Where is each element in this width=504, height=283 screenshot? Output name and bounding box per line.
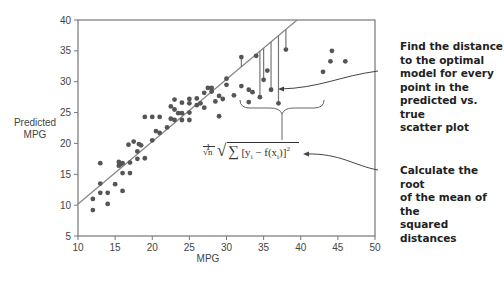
data-point <box>150 114 155 119</box>
data-point <box>276 101 281 106</box>
y-tick-label: 30 <box>60 76 72 87</box>
annotation-line: squared distances <box>400 218 504 245</box>
annotation-line: point in the <box>400 81 504 95</box>
annotation-line: Find the distance <box>400 40 504 54</box>
annotation-line: model for every <box>400 67 504 81</box>
data-point <box>284 47 289 52</box>
data-point <box>98 161 103 166</box>
data-point <box>198 101 203 106</box>
y-axis-title-line2: MPG <box>24 129 47 140</box>
x-axis-title: MPG <box>197 253 220 264</box>
y-tick-label: 20 <box>60 138 72 149</box>
sqrt-symbol-icon: √ <box>217 141 226 161</box>
formula-term: [yi − f(xi)]2 <box>241 146 289 158</box>
rmse-formula: 1 √n √ ∑ [yi − f(xi)]2 <box>203 143 313 167</box>
data-point <box>120 171 125 176</box>
residual-lines <box>241 29 286 103</box>
data-point <box>254 53 259 58</box>
data-point <box>239 84 244 89</box>
data-point <box>239 55 244 60</box>
x-tick-label: 25 <box>184 242 196 253</box>
y-tick-label: 35 <box>60 45 72 56</box>
data-point <box>213 99 218 104</box>
data-point <box>180 111 185 116</box>
data-point <box>157 131 162 136</box>
x-tick-label: 10 <box>72 242 84 253</box>
y-tick-label: 15 <box>60 169 72 180</box>
curly-brace <box>240 100 324 140</box>
data-point <box>343 59 348 64</box>
data-points <box>90 47 347 212</box>
x-tick-label: 15 <box>110 242 122 253</box>
x-tick-label: 50 <box>369 242 381 253</box>
data-point <box>232 93 237 98</box>
data-point <box>261 77 266 82</box>
data-point <box>187 97 192 102</box>
data-point <box>246 100 251 105</box>
x-tick-label: 30 <box>221 242 233 253</box>
data-point <box>217 114 222 119</box>
data-point <box>224 76 229 81</box>
annotation-line: to the optimal <box>400 54 504 68</box>
data-point <box>269 87 274 92</box>
data-point <box>157 114 162 119</box>
annotation-line: scatter plot <box>400 121 504 135</box>
data-point <box>172 107 177 112</box>
data-point <box>180 100 185 105</box>
data-point <box>90 208 95 213</box>
data-point <box>217 94 222 99</box>
annotation-line: predicted vs. true <box>400 94 504 121</box>
data-point <box>90 197 95 202</box>
data-point <box>328 59 333 64</box>
data-point <box>180 118 185 123</box>
y-tick-label: 10 <box>60 200 72 211</box>
data-point <box>194 96 199 101</box>
data-point <box>139 143 144 148</box>
data-point <box>142 156 147 161</box>
data-point <box>128 160 133 165</box>
data-point <box>187 101 192 106</box>
data-point <box>113 182 118 187</box>
y-axis-title-line1: Predicted <box>14 117 56 128</box>
x-tick-label: 45 <box>332 242 344 253</box>
data-point <box>98 190 103 195</box>
annotation-top: Find the distance to the optimal model f… <box>400 40 504 135</box>
data-point <box>321 69 326 74</box>
x-tick-label: 40 <box>295 242 307 253</box>
data-point <box>105 190 110 195</box>
data-point <box>258 95 263 100</box>
data-point <box>120 161 125 166</box>
data-point <box>209 89 214 94</box>
data-point <box>265 68 270 73</box>
data-point <box>165 125 170 130</box>
annotation-line: of the mean of the <box>400 191 504 218</box>
data-point <box>202 105 207 110</box>
data-point <box>120 189 125 194</box>
annotation-line: Calculate the root <box>400 164 504 191</box>
data-point <box>135 149 140 154</box>
data-point <box>98 181 103 186</box>
data-point <box>135 156 140 161</box>
data-point <box>131 139 136 144</box>
data-point <box>142 114 147 119</box>
data-point <box>202 90 207 95</box>
data-point <box>150 138 155 143</box>
y-tick-label: 25 <box>60 107 72 118</box>
annotation-bottom: Calculate the root of the mean of the sq… <box>400 164 504 245</box>
y-tick-label: 40 <box>60 15 72 26</box>
data-point <box>126 142 131 147</box>
sum-symbol: ∑ <box>228 143 239 159</box>
data-point <box>187 118 192 123</box>
data-point <box>128 171 133 176</box>
data-point <box>187 110 192 115</box>
data-point <box>220 97 225 102</box>
x-tick-label: 35 <box>258 242 270 253</box>
formula-denominator: √n <box>203 147 212 157</box>
y-tick-label: 5 <box>65 231 71 242</box>
data-point <box>330 48 335 53</box>
data-point <box>224 82 229 87</box>
data-point <box>250 90 255 95</box>
data-point <box>172 118 177 123</box>
data-point <box>172 97 177 102</box>
data-point <box>168 104 173 109</box>
